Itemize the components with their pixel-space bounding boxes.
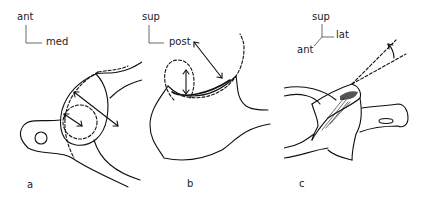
panel-label-a: a [27,179,33,190]
panel-label-b: b [187,178,193,189]
panel-b-drawing [142,0,284,197]
panel-c-drawing [284,0,426,197]
panel-b: sup post b [142,0,284,197]
panel-a: ant med a [0,0,142,197]
panel-c: sup lat ant c [284,0,426,197]
panel-label-c: c [299,178,305,189]
panel-a-drawing [0,0,142,197]
